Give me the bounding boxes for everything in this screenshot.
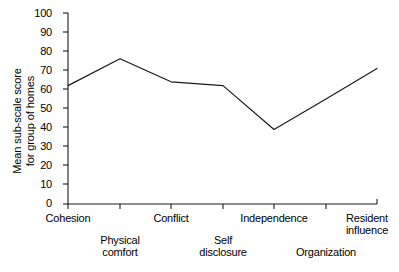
- x-tick-label-resident-influence-line-2: influence: [336, 224, 398, 236]
- x-tick-label-physical-comfort-line-1: Physical: [78, 234, 162, 246]
- data-series-line: [68, 59, 377, 130]
- x-tick-label-independence-line-1: Independence: [222, 212, 326, 224]
- x-tick-label-conflict-line-1: Conflict: [128, 212, 214, 224]
- x-tick-label-resident-influence: Resident influence: [336, 212, 398, 236]
- x-tick-label-self-disclosure: Self disclosure: [178, 234, 268, 258]
- x-tick-label-cohesion: Cohesion: [24, 212, 112, 224]
- x-tick-label-organization-line-1: Organization: [272, 246, 380, 258]
- line-chart: Mean sub-scale score for group of homes …: [0, 0, 399, 272]
- x-tick-label-cohesion-line-1: Cohesion: [24, 212, 112, 224]
- x-tick-label-independence: Independence: [222, 212, 326, 224]
- x-tick-label-physical-comfort: Physical comfort: [78, 234, 162, 258]
- y-axis-ticks: [63, 13, 68, 204]
- x-tick-label-self-disclosure-line-2: disclosure: [178, 246, 268, 258]
- x-tick-label-self-disclosure-line-1: Self: [178, 234, 268, 246]
- x-tick-label-resident-influence-line-1: Resident: [336, 212, 398, 224]
- x-tick-label-conflict: Conflict: [128, 212, 214, 224]
- x-tick-label-organization: Organization: [272, 246, 380, 258]
- x-tick-label-physical-comfort-line-2: comfort: [78, 246, 162, 258]
